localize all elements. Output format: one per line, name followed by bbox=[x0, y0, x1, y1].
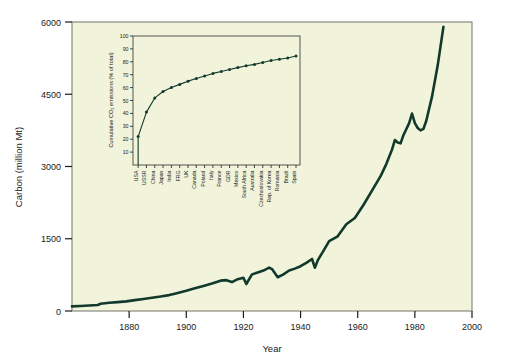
inset-category-label: Canada bbox=[191, 170, 197, 188]
main-x-tick-label: 1960 bbox=[348, 322, 368, 332]
main-y-tick-label: 3000 bbox=[41, 162, 61, 172]
inset-data-point bbox=[228, 68, 231, 71]
inset-data-point bbox=[187, 80, 190, 83]
inset-category-label: Japan bbox=[158, 170, 164, 184]
main-x-tick-label: 2000 bbox=[462, 322, 482, 332]
main-y-axis-label: Carbon (million Mt) bbox=[13, 127, 24, 207]
main-x-tick-label: 1900 bbox=[176, 322, 196, 332]
inset-data-point bbox=[195, 77, 198, 80]
inset-data-point bbox=[236, 66, 239, 69]
inset-category-label: India bbox=[166, 170, 172, 181]
inset-category-label: FRG bbox=[175, 171, 181, 182]
inset-data-point bbox=[178, 83, 181, 86]
inset-category-label: USSR bbox=[141, 170, 147, 185]
inset-data-point bbox=[220, 70, 223, 73]
main-y-tick-label: 6000 bbox=[41, 18, 61, 28]
inset-data-point bbox=[295, 55, 298, 58]
inset-category-label: Poland bbox=[200, 170, 206, 186]
inset-category-label: Brazil bbox=[283, 171, 289, 184]
inset-category-label: Mexico bbox=[233, 170, 239, 187]
inset-category-label: GDR bbox=[225, 170, 231, 182]
inset-data-point bbox=[162, 90, 165, 93]
inset-y-tick-label: 20 bbox=[123, 136, 129, 142]
carbon-emissions-chart: 01500300045006000 1880190019201940196019… bbox=[0, 0, 512, 364]
inset-y-tick-label: 30 bbox=[123, 123, 129, 129]
inset-data-point bbox=[253, 63, 256, 66]
inset-data-point bbox=[211, 72, 214, 75]
inset-data-point bbox=[170, 86, 173, 89]
inset-y-tick-label: 70 bbox=[123, 72, 129, 78]
inset-category-label: Spain bbox=[291, 170, 297, 183]
inset-data-point bbox=[286, 56, 289, 59]
inset-y-axis-label: Cumulative CO₂ emissions (% of total) bbox=[108, 52, 114, 147]
main-x-axis-ticks: 1880190019201940196019802000 bbox=[119, 311, 482, 332]
inset-category-label: France bbox=[216, 170, 222, 186]
inset-y-tick-label: 50 bbox=[123, 98, 129, 104]
inset-chart: 102030405060708090100 USAUSSRChinaJapanI… bbox=[108, 33, 300, 207]
inset-data-point bbox=[270, 59, 273, 62]
inset-y-tick-label: 100 bbox=[120, 33, 129, 39]
inset-y-tick-label: 10 bbox=[123, 149, 129, 155]
main-x-tick-label: 1940 bbox=[291, 322, 311, 332]
main-x-tick-label: 1920 bbox=[233, 322, 253, 332]
main-y-tick-label: 4500 bbox=[41, 90, 61, 100]
inset-category-label: Australia bbox=[249, 170, 255, 190]
inset-y-tick-label: 60 bbox=[123, 85, 129, 91]
inset-category-label: USA bbox=[133, 170, 139, 181]
inset-category-label: China bbox=[150, 170, 156, 184]
main-y-tick-label: 1500 bbox=[41, 234, 61, 244]
inset-data-point bbox=[203, 74, 206, 77]
figure-container: 01500300045006000 1880190019201940196019… bbox=[0, 0, 512, 364]
inset-category-label: Czechoslovakia bbox=[258, 170, 264, 206]
inset-data-point bbox=[278, 58, 281, 61]
inset-data-point bbox=[137, 135, 140, 138]
inset-category-label: Romania bbox=[274, 170, 280, 191]
inset-y-tick-label: 80 bbox=[123, 59, 129, 65]
inset-category-label: UK bbox=[183, 170, 189, 178]
inset-data-point bbox=[145, 111, 148, 114]
main-x-tick-label: 1880 bbox=[119, 322, 139, 332]
inset-category-label: Rep. of Korea bbox=[266, 170, 272, 202]
main-x-tick-label: 1980 bbox=[405, 322, 425, 332]
inset-y-tick-label: 40 bbox=[123, 110, 129, 116]
main-y-axis-ticks: 01500300045006000 bbox=[41, 18, 72, 317]
main-x-axis-label: Year bbox=[262, 343, 281, 354]
inset-data-point bbox=[261, 61, 264, 64]
main-y-tick-label: 0 bbox=[56, 307, 61, 317]
inset-category-label: South Africa bbox=[241, 170, 247, 198]
inset-y-tick-label: 90 bbox=[123, 46, 129, 52]
inset-category-label: Italy bbox=[208, 170, 214, 180]
inset-data-point bbox=[245, 64, 248, 67]
inset-plot-background bbox=[133, 36, 300, 165]
inset-data-point bbox=[153, 96, 156, 99]
